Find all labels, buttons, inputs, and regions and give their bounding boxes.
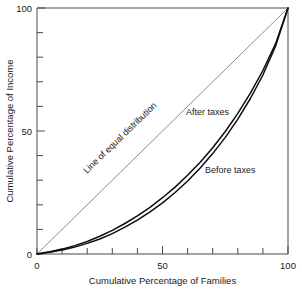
x-axis-title: Cumulative Percentage of Families	[89, 275, 237, 286]
y-tick-label-50: 50	[21, 126, 32, 137]
y-tick-label-100: 100	[16, 3, 32, 14]
chart-canvas: 100 50 0 0 50 100 Cumulative Percentage …	[0, 0, 302, 289]
y-tick-label-0: 0	[27, 249, 32, 260]
annotation-equal-distribution: Line of equal distribution	[81, 100, 158, 175]
lorenz-curve-figure: 100 50 0 0 50 100 Cumulative Percentage …	[0, 0, 302, 289]
y-axis-ticks	[37, 8, 45, 254]
x-tick-label-0: 0	[34, 260, 39, 271]
annotation-after-taxes: After taxes	[186, 107, 230, 117]
annotation-before-taxes: Before taxes	[205, 165, 256, 175]
x-tick-label-50: 50	[157, 260, 168, 271]
y-axis-title: Cumulative Percentage of Income	[4, 59, 15, 202]
x-tick-label-100: 100	[280, 260, 296, 271]
equal-distribution-line	[37, 8, 288, 254]
